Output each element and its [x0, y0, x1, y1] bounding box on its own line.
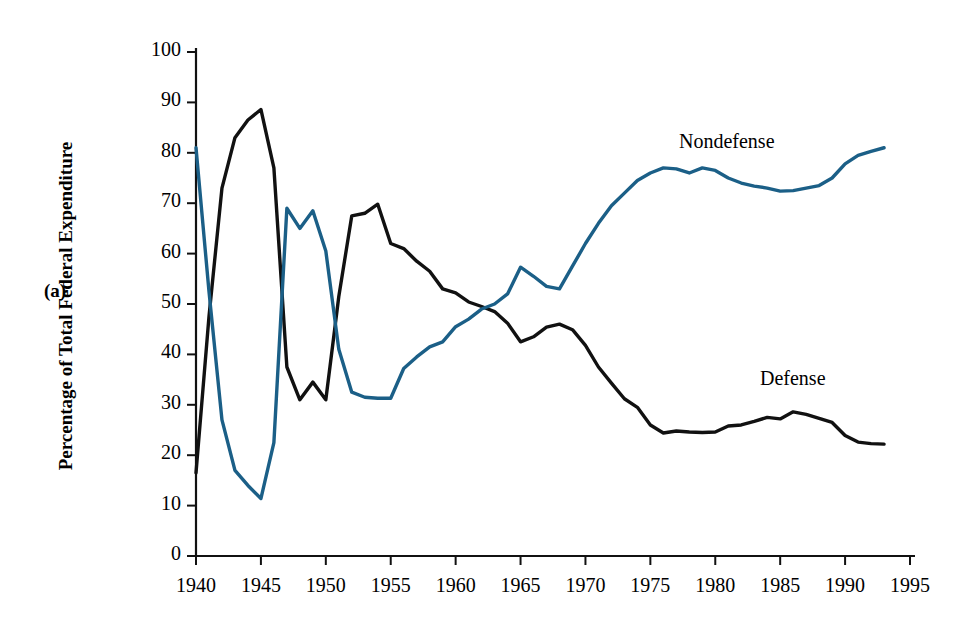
- y-axis-tick-label: 80: [137, 139, 181, 162]
- axes: [187, 48, 915, 565]
- series-label-defense: Defense: [760, 367, 826, 390]
- y-axis-ticks: [187, 52, 196, 556]
- x-axis-tick-label: 1985: [748, 574, 812, 597]
- x-axis-tick-label: 1995: [878, 574, 942, 597]
- y-axis-tick-label: 20: [137, 441, 181, 464]
- y-axis-tick-label: 100: [137, 38, 181, 61]
- x-axis-tick-label: 1960: [424, 574, 488, 597]
- y-axis-tick-label: 30: [137, 391, 181, 414]
- y-axis-tick-label: 60: [137, 240, 181, 263]
- series-line-nondefense: [196, 148, 884, 499]
- data-series-paths: [196, 109, 884, 498]
- y-axis-tick-label: 40: [137, 340, 181, 363]
- x-axis-tick-label: 1945: [229, 574, 293, 597]
- y-axis-tick-label: 90: [137, 88, 181, 111]
- x-axis-ticks: [196, 556, 910, 565]
- x-axis-tick-label: 1970: [553, 574, 617, 597]
- y-axis-tick-label: 50: [137, 290, 181, 313]
- x-axis-tick-label: 1950: [294, 574, 358, 597]
- x-axis-tick-label: 1990: [813, 574, 877, 597]
- y-axis-title: Percentage of Total Federal Expenditure: [55, 106, 77, 506]
- y-axis-tick-label: 10: [137, 492, 181, 515]
- x-axis-tick-label: 1955: [359, 574, 423, 597]
- x-axis-tick-label: 1975: [618, 574, 682, 597]
- y-axis-tick-label: 70: [137, 189, 181, 212]
- series-label-nondefense: Nondefense: [679, 130, 775, 153]
- x-axis-tick-label: 1980: [683, 574, 747, 597]
- chart-figure: (a) Percentage of Total Federal Expendit…: [0, 0, 979, 623]
- x-axis-tick-label: 1940: [164, 574, 228, 597]
- series-line-defense: [196, 109, 884, 472]
- y-axis-tick-label: 0: [137, 542, 181, 565]
- x-axis-tick-label: 1965: [489, 574, 553, 597]
